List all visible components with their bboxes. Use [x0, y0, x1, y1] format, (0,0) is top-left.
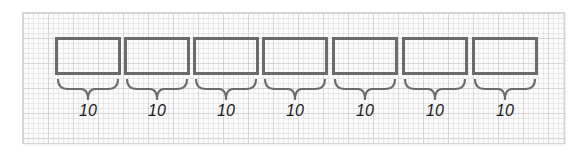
segment-box-2 — [124, 37, 190, 75]
curly-brace-icon — [262, 78, 328, 102]
curly-brace-icon — [402, 78, 468, 102]
segment-length-label: 10 — [472, 102, 538, 120]
segment-length-label: 10 — [262, 102, 328, 120]
segment-length-label: 10 — [332, 102, 398, 120]
segment-length-label: 10 — [402, 102, 468, 120]
curly-brace-icon — [472, 78, 538, 102]
segment-box-7 — [472, 37, 538, 75]
curly-brace-icon — [124, 78, 190, 102]
segment-length-label: 10 — [124, 102, 190, 120]
curly-brace-icon — [193, 78, 259, 102]
curly-brace-icon — [55, 78, 121, 102]
curly-brace-icon — [332, 78, 398, 102]
segment-length-label: 10 — [193, 102, 259, 120]
segment-box-1 — [55, 37, 121, 75]
segment-length-label: 10 — [55, 102, 121, 120]
segment-box-6 — [402, 37, 468, 75]
segment-box-4 — [262, 37, 328, 75]
segment-box-3 — [193, 37, 259, 75]
segment-box-5 — [332, 37, 398, 75]
